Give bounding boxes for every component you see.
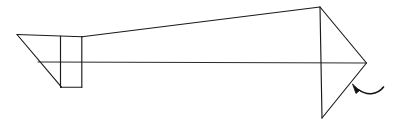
line-diagram-canvas <box>0 0 398 127</box>
diagram-background <box>0 0 398 127</box>
diagram-root <box>0 0 398 127</box>
